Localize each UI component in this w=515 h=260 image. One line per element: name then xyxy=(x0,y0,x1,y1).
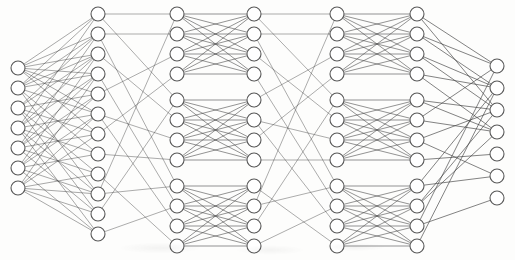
edge xyxy=(22,40,94,143)
hidden4-to-hidden5-dense-blocks xyxy=(343,14,412,246)
edge xyxy=(102,106,173,209)
edge xyxy=(258,106,333,220)
edge xyxy=(258,80,334,200)
neuron-node xyxy=(170,67,184,81)
edge xyxy=(424,101,490,109)
edge xyxy=(261,188,330,205)
neuron-node xyxy=(247,179,261,193)
neural-network-figure xyxy=(0,0,515,260)
neuron-node xyxy=(490,125,504,139)
neuron-node xyxy=(330,153,344,167)
edge xyxy=(423,78,492,128)
neuron-node xyxy=(91,207,105,221)
edge xyxy=(421,115,492,200)
neuron-node xyxy=(490,103,504,117)
hidden3-to-hidden4-shuffle xyxy=(257,14,334,243)
edge xyxy=(424,121,490,131)
edge xyxy=(260,190,332,242)
edge xyxy=(103,19,173,95)
neuron-node xyxy=(410,67,424,81)
edge xyxy=(259,19,332,95)
neuron-node xyxy=(410,179,424,193)
neuron-node xyxy=(91,147,105,161)
neuron-node xyxy=(247,7,261,21)
edge xyxy=(103,179,172,242)
neuron-node xyxy=(170,93,184,107)
neuron-node xyxy=(410,113,424,127)
neuron-node xyxy=(170,179,184,193)
neuron-node xyxy=(330,27,344,41)
neuron-node xyxy=(330,47,344,61)
input-layer xyxy=(11,61,25,195)
neuron-node xyxy=(91,7,105,21)
neuron-node xyxy=(247,133,261,147)
neuron-node xyxy=(170,7,184,21)
neuron-node xyxy=(91,107,105,121)
edge xyxy=(423,18,491,62)
edge xyxy=(424,200,491,223)
edge xyxy=(102,80,174,200)
edge xyxy=(105,116,171,138)
network-diagram-svg xyxy=(0,0,515,260)
neuron-node xyxy=(170,133,184,147)
neuron-node xyxy=(330,133,344,147)
neuron-node xyxy=(410,93,424,107)
edge xyxy=(103,58,171,115)
hidden5-to-output xyxy=(420,18,494,240)
neuron-node xyxy=(11,61,25,75)
neuron-node xyxy=(11,161,25,175)
figure-caption xyxy=(0,246,515,260)
edge xyxy=(22,80,94,183)
hidden-layer-3 xyxy=(247,7,261,253)
neuron-node xyxy=(330,219,344,233)
neuron-node xyxy=(170,27,184,41)
hidden1-to-hidden2-shuffle xyxy=(101,14,174,241)
neuron-node xyxy=(170,199,184,213)
edge xyxy=(25,190,92,212)
neuron-node xyxy=(490,191,504,205)
neuron-node xyxy=(490,169,504,183)
edge xyxy=(105,208,171,231)
edge xyxy=(424,37,491,64)
edge xyxy=(260,57,331,96)
neuron-node xyxy=(330,179,344,193)
neuron-node xyxy=(490,59,504,73)
neuron-node xyxy=(247,113,261,127)
neuron-node xyxy=(247,153,261,167)
neuron-node xyxy=(410,199,424,213)
neuron-node xyxy=(410,7,424,21)
neuron-node xyxy=(247,199,261,213)
hidden-layer-1 xyxy=(91,7,105,241)
edge xyxy=(421,19,492,104)
edge xyxy=(101,20,174,187)
neuron-node xyxy=(410,219,424,233)
neuron-node xyxy=(91,167,105,181)
neuron-node xyxy=(11,81,25,95)
edge xyxy=(23,19,93,84)
edge xyxy=(420,72,494,219)
edge xyxy=(104,57,171,91)
neuron-node xyxy=(330,67,344,81)
neuron-node xyxy=(330,93,344,107)
output-layer xyxy=(490,59,504,205)
neuron-node xyxy=(11,101,25,115)
hidden2-to-hidden3-dense-blocks xyxy=(183,14,249,246)
neuron-node xyxy=(247,219,261,233)
neuron-node xyxy=(170,219,184,233)
neuron-node xyxy=(410,133,424,147)
edge xyxy=(24,191,92,230)
hidden-layer-2 xyxy=(170,7,184,253)
edge xyxy=(424,155,490,160)
edge xyxy=(22,20,94,123)
edge xyxy=(22,60,94,163)
edge xyxy=(424,177,490,185)
neuron-node xyxy=(91,187,105,201)
edge xyxy=(260,209,330,243)
neuron-node xyxy=(247,93,261,107)
edge xyxy=(102,120,173,221)
neuron-node xyxy=(330,199,344,213)
input-to-hidden1 xyxy=(22,18,94,231)
neuron-node xyxy=(91,67,105,81)
neuron-node xyxy=(11,121,25,135)
neuron-node xyxy=(91,227,105,241)
